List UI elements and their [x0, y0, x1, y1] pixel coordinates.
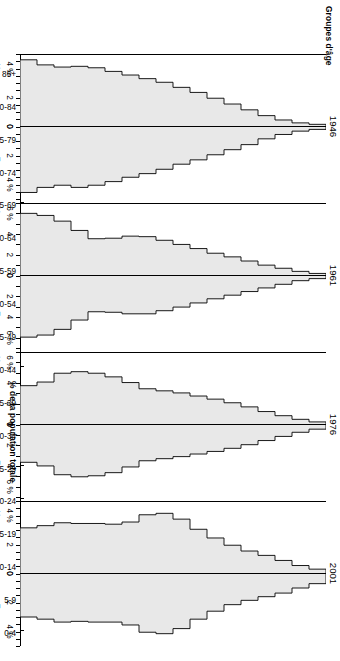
value-axis-label: 4 — [5, 232, 14, 237]
hommes-side-label: Hommes — [0, 207, 2, 241]
value-axis-label: 2 — [5, 402, 14, 407]
value-axis-label: 0 — [5, 422, 14, 427]
value-axis-label: 2 — [5, 542, 14, 547]
figure-rotation-wrapper: Groupes d'âge % de la population totale … — [0, 0, 340, 661]
pyramid-hommes-area — [20, 372, 326, 425]
value-axis-label: 6 % — [5, 206, 14, 220]
panel-year-label: 1961 — [328, 265, 339, 286]
value-axis-label: 4 — [5, 464, 14, 469]
age-axis-label-text: 80-84 — [0, 102, 16, 111]
value-axis-label: 4 % — [5, 624, 14, 638]
pyramid-hommes-area — [20, 60, 326, 127]
pyramid-panel: 6 %4200246 %HommesFemmes1961 — [20, 203, 326, 348]
value-axis-label: 6 % — [5, 355, 14, 369]
pyramid-panel: 4 %20024 %HommesFemmes1946 — [20, 54, 326, 199]
age-axis-label-text: 70-74 — [0, 168, 16, 177]
value-axis-label: 4 % — [5, 508, 14, 522]
age-axis-label-text: 15-19 — [0, 530, 16, 539]
pyramid-femmes-area — [20, 276, 326, 338]
femmes-side-label: Femmes — [0, 311, 2, 344]
value-axis-label: 0 — [5, 124, 14, 129]
value-axis-label: 2 — [5, 600, 14, 605]
value-axis-tick — [16, 348, 20, 349]
value-axis-label: 4 % — [5, 61, 14, 75]
pyramid-panel: 6 %4200246 %HommesFemmes1976 — [20, 352, 326, 497]
panel-year-label: 2001 — [328, 563, 339, 584]
panel-year-label: 1946 — [328, 116, 339, 137]
value-axis-label: 2 — [5, 253, 14, 258]
pyramid-panel: 4 %20024 %HommesFemmes2001 — [20, 501, 326, 646]
value-axis-label: 0 — [5, 571, 14, 576]
pyramid-plot — [20, 501, 326, 646]
age-axis-label-text: 20-24 — [0, 497, 16, 506]
value-axis-label: 4 % — [5, 177, 14, 191]
hommes-side-label: Hommes — [0, 63, 2, 97]
age-axis-label-text: 30-34 — [0, 431, 16, 440]
age-axis-label-text: 50-54 — [0, 300, 16, 309]
value-axis-tick — [16, 199, 20, 200]
femmes-side-label: Femmes — [0, 157, 2, 190]
value-axis-tick — [16, 497, 20, 498]
value-axis-label: 2 — [5, 153, 14, 158]
age-axis-label-text: 75-79 — [0, 135, 16, 144]
femmes-side-label: Femmes — [0, 460, 2, 493]
value-axis-label: 2 — [5, 95, 14, 100]
femmes-side-label: Femmes — [0, 604, 2, 637]
value-axis-label: 0 — [5, 273, 14, 278]
value-axis-label: 2 — [5, 443, 14, 448]
panel-year-label: 1976 — [328, 414, 339, 435]
pyramid-femmes-area — [20, 574, 326, 634]
value-axis-tick — [16, 646, 20, 647]
value-axis-label: 4 — [5, 315, 14, 320]
hommes-side-label: Hommes — [0, 356, 2, 390]
hommes-side-label: Hommes — [0, 510, 2, 544]
pyramid-hommes-area — [20, 213, 326, 275]
pyramid-plot — [20, 203, 326, 348]
value-axis-label: 4 — [5, 381, 14, 386]
value-axis-label: 2 — [5, 294, 14, 299]
pyramid-plot — [20, 352, 326, 497]
pyramid-plot — [20, 54, 326, 199]
pyramid-hommes-area — [20, 513, 326, 573]
age-axis-tick — [20, 498, 24, 499]
pyramid-femmes-area — [20, 127, 326, 193]
value-axis-label: 6 % — [5, 480, 14, 494]
population-pyramid-figure: Groupes d'âge % de la population totale … — [0, 0, 340, 661]
value-axis-label: 6 % — [5, 331, 14, 345]
pyramid-femmes-area — [20, 425, 326, 477]
